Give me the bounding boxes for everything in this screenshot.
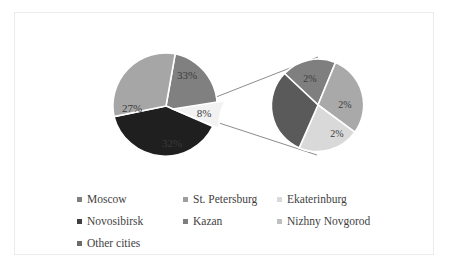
main-slice-label-other-group: 8% (197, 107, 212, 119)
legend-swatch-icon (277, 197, 282, 202)
legend-swatch-icon (77, 197, 82, 202)
legend-swatch-icon (183, 197, 188, 202)
secondary-slice-label-nizhny-novgorod: 2% (330, 128, 343, 139)
legend-label: Moscow (87, 193, 127, 205)
pie-chart-plot-area: 33% 32% 27% 8% 2% 2% 2% (15, 13, 435, 195)
legend-label: Nizhny Novgorod (287, 215, 370, 227)
legend-item-other-cities[interactable]: Other cities (77, 237, 140, 249)
secondary-slice-label-kazan: 2% (338, 99, 351, 110)
legend-label: Novosibirsk (87, 215, 143, 227)
legend-swatch-icon (77, 241, 82, 246)
legend-row: Novosibirsk Kazan Nizhny Novgorod (15, 215, 435, 234)
main-slice-label-st-petersburg: 32% (162, 137, 182, 149)
main-pie: 33% 32% 27% 8% (113, 53, 225, 156)
legend-swatch-icon (183, 219, 188, 224)
legend-item-ekaterinburg[interactable]: Ekaterinburg (277, 193, 347, 205)
secondary-pie: 2% 2% 2% (271, 59, 363, 151)
legend-item-novosibirsk[interactable]: Novosibirsk (77, 215, 143, 227)
chart-frame: 33% 32% 27% 8% 2% 2% 2% (14, 12, 434, 255)
legend-swatch-icon (277, 219, 282, 224)
legend-item-st-petersburg[interactable]: St. Petersburg (183, 193, 257, 205)
chart-legend: Moscow St. Petersburg Ekaterinburg Novos… (15, 193, 435, 255)
main-slice-label-moscow: 33% (177, 69, 197, 81)
legend-label: Kazan (193, 215, 222, 227)
legend-row: Moscow St. Petersburg Ekaterinburg (15, 193, 435, 212)
legend-item-moscow[interactable]: Moscow (77, 193, 127, 205)
bar-of-pie-figure: 33% 32% 27% 8% 2% 2% 2% (15, 13, 435, 195)
legend-item-kazan[interactable]: Kazan (183, 215, 222, 227)
secondary-slice-label-novosibirsk: 2% (303, 73, 316, 84)
main-slice-label-ekaterinburg: 27% (122, 102, 142, 114)
legend-label: St. Petersburg (193, 193, 257, 205)
legend-swatch-icon (77, 219, 82, 224)
legend-row: Other cities (15, 237, 435, 256)
legend-item-nizhny-novgorod[interactable]: Nizhny Novgorod (277, 215, 370, 227)
legend-label: Other cities (87, 237, 140, 249)
legend-label: Ekaterinburg (287, 193, 347, 205)
